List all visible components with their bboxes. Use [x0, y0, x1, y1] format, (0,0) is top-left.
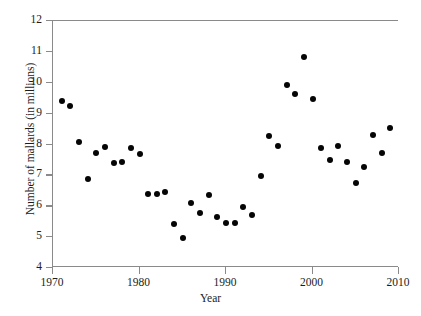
y-axis-tick [46, 144, 53, 145]
data-point [361, 164, 367, 170]
data-point [318, 145, 324, 151]
data-point [93, 150, 99, 156]
data-point [258, 173, 264, 179]
data-point [353, 180, 359, 186]
y-axis-tick [46, 174, 53, 175]
data-point [266, 133, 272, 139]
data-point [284, 82, 290, 88]
data-point [128, 145, 134, 151]
x-axis-title: Year [0, 292, 421, 304]
data-point [171, 221, 177, 227]
y-axis-tick [46, 236, 53, 237]
data-point [111, 160, 117, 166]
data-point [137, 151, 143, 157]
data-point [387, 125, 393, 131]
x-axis-tick-label: 2000 [285, 276, 339, 288]
x-axis-tick-label: 2010 [371, 276, 421, 288]
data-point [102, 144, 108, 150]
data-point [310, 96, 316, 102]
y-axis-tick [46, 51, 53, 52]
data-point [162, 189, 168, 195]
data-point [335, 143, 341, 149]
data-point [85, 176, 91, 182]
x-axis-tick [52, 267, 53, 274]
y-axis-tick [46, 205, 53, 206]
data-point [206, 192, 212, 198]
data-point [188, 200, 194, 206]
x-axis-tick [312, 267, 313, 274]
y-axis-tick-label: 4 [12, 261, 42, 273]
data-point [223, 220, 229, 226]
data-point [292, 91, 298, 97]
data-point [180, 235, 186, 241]
x-axis-tick-label: 1970 [25, 276, 79, 288]
data-point [214, 214, 220, 220]
data-point [197, 210, 203, 216]
data-point [59, 98, 65, 104]
data-point [145, 191, 151, 197]
data-point [67, 103, 73, 109]
data-point [232, 220, 238, 226]
data-point [379, 150, 385, 156]
data-point [301, 54, 307, 60]
data-point [76, 139, 82, 145]
data-point [344, 159, 350, 165]
x-axis-tick [225, 267, 226, 274]
x-axis-tick-label: 1980 [112, 276, 166, 288]
x-axis-tick [398, 267, 399, 274]
x-axis-tick-label: 1990 [198, 276, 252, 288]
y-axis-tick [46, 113, 53, 114]
y-axis-tick [46, 20, 53, 21]
data-point [327, 157, 333, 163]
data-point [249, 212, 255, 218]
y-axis-tick [46, 82, 53, 83]
data-point [119, 159, 125, 165]
data-point [275, 143, 281, 149]
y-axis-title: Number of mallards (in millions) [24, 24, 36, 254]
x-axis-tick [139, 267, 140, 274]
data-point [154, 191, 160, 197]
data-point [240, 204, 246, 210]
scatter-plot-figure: 456789101112 19701980199020002010 Year N… [0, 0, 421, 316]
data-point [370, 132, 376, 138]
plot-area [52, 20, 398, 267]
